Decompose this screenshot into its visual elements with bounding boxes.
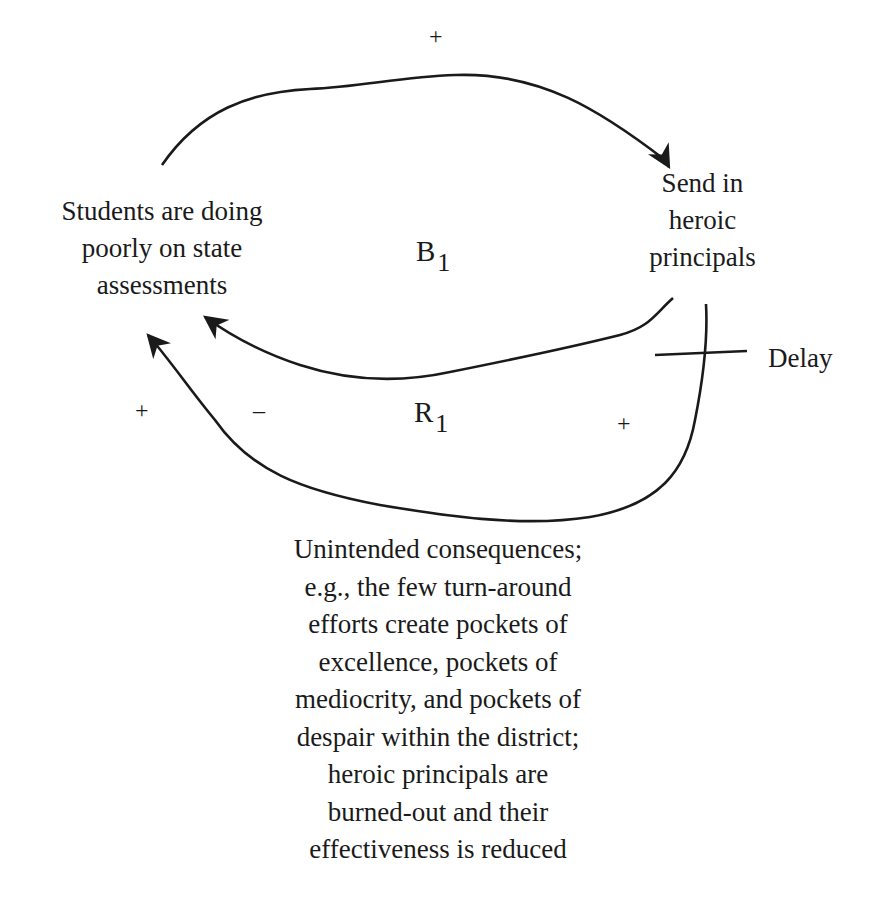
loop-index: 1	[437, 248, 450, 277]
loop-label-balancing: B1	[416, 236, 450, 278]
polarity-sign-left-plus: +	[135, 398, 149, 422]
polarity-sign-top: +	[429, 24, 443, 48]
link-heroic-to-students	[205, 298, 673, 379]
loop-letter: B	[416, 235, 435, 267]
causal-loop-diagram: Students are doing poorly on state asses…	[0, 0, 878, 901]
link-students-to-heroic	[162, 75, 669, 167]
loop-letter: R	[414, 396, 433, 428]
polarity-sign-right-plus: +	[617, 411, 631, 435]
loop-label-reinforcing: R1	[414, 397, 448, 439]
loop-index: 1	[435, 409, 448, 438]
node-send-heroic-principals: Send in heroic principals	[615, 165, 790, 276]
node-unintended-consequences: Unintended consequences; e.g., the few t…	[228, 531, 648, 869]
node-students-poor-assessments: Students are doing poorly on state asses…	[22, 193, 302, 304]
delay-mark	[655, 351, 747, 355]
delay-label: Delay	[768, 343, 832, 373]
polarity-sign-left-minus: –	[253, 398, 265, 422]
